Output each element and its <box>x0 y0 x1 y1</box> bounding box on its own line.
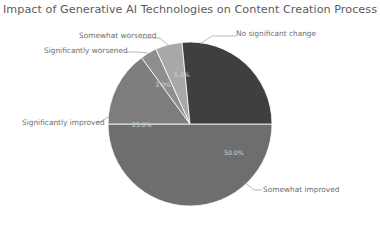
leader-line-no-significant-change <box>200 36 236 44</box>
leader-line-significantly-worsened <box>126 52 148 53</box>
pie-slice-somewhat-improved[interactable] <box>108 124 272 206</box>
pie-chart-figure: Impact of Generative AI Technologies on … <box>0 0 380 229</box>
pie-label-no-significant-change: No significant change <box>236 30 316 37</box>
pie-label-significantly-worsened: Significantly worsened <box>44 47 128 54</box>
pie-label-somewhat-improved: Somewhat improved <box>263 186 339 193</box>
pie-percent-somewhat-worsened: 5.0% <box>174 72 190 78</box>
pie-label-significantly-improved: Significantly improved <box>22 119 105 126</box>
pie-percent-significantly-improved: 25.0% <box>132 122 152 128</box>
pie-percent-significantly-worsened: 3.0% <box>155 82 171 88</box>
pie-percent-somewhat-improved: 50.0% <box>224 150 244 156</box>
pie-chart-canvas <box>0 0 380 229</box>
pie-slice-no-significant-change[interactable] <box>182 42 272 124</box>
pie-label-somewhat-worsened: Somewhat worsened <box>79 32 156 39</box>
